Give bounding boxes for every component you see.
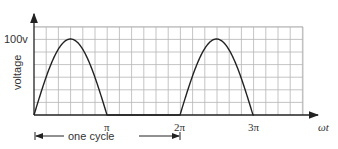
one-cycle-label: one cycle (68, 130, 114, 142)
half-wave-chart: 100v voltage π 2π 3π ωt one cycle (0, 0, 338, 149)
y-peak-label: 100v (4, 33, 28, 45)
x-tick-2pi: 2π (174, 121, 186, 133)
x-axis-label: ωt (318, 121, 330, 133)
x-tick-3pi: 3π (248, 121, 260, 133)
y-axis-label: voltage (11, 55, 23, 90)
